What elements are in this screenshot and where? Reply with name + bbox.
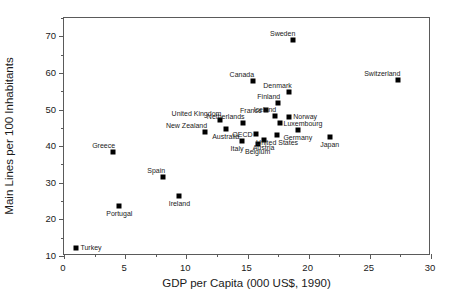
y-axis-tick-label: 30 (38, 176, 56, 187)
data-point-marker (277, 121, 282, 126)
x-axis-tick (309, 254, 310, 259)
data-point-label: OECD (232, 131, 252, 138)
data-point-label: Greece (92, 142, 115, 149)
x-axis-tick (186, 254, 187, 259)
y-axis-tick (59, 219, 64, 220)
y-axis-minor-tick (61, 164, 64, 165)
x-axis-tick-label: 5 (122, 262, 127, 273)
x-axis-tick-label: 10 (180, 262, 191, 273)
data-point-marker (290, 37, 295, 42)
data-point-marker (254, 132, 259, 137)
data-point-label: Italy (231, 145, 244, 152)
data-point-label: Germany (283, 134, 312, 141)
x-axis-tick (248, 254, 249, 259)
data-point-marker (276, 101, 281, 106)
y-axis-tick-label: 50 (38, 103, 56, 114)
data-point-marker (287, 114, 292, 119)
data-point-label: Luxembourg (284, 120, 323, 127)
x-axis-tick-label: 30 (425, 262, 436, 273)
x-axis-tick-label: 20 (302, 262, 313, 273)
y-axis-minor-tick (61, 91, 64, 92)
x-axis-tick (370, 254, 371, 259)
y-axis-tick-label: 70 (38, 30, 56, 41)
data-point-marker (111, 150, 116, 155)
data-point-label: Sweden (270, 30, 295, 37)
data-point-label: Turkey (80, 244, 101, 251)
y-axis-minor-tick (61, 238, 64, 239)
x-axis-minor-tick (400, 254, 401, 257)
x-axis-tick (125, 254, 126, 259)
data-point-label: Ireland (169, 200, 190, 207)
x-axis-minor-tick (278, 254, 279, 257)
x-axis-tick-label: 15 (241, 262, 252, 273)
data-point-marker (117, 203, 122, 208)
x-axis-minor-tick (156, 254, 157, 257)
data-point-label: Japan (320, 141, 339, 148)
x-axis-tick (64, 254, 65, 259)
data-point-marker (223, 126, 228, 131)
y-axis-tick-label: 10 (38, 250, 56, 261)
scatter-chart: Main Lines per 100 Inhabitants GDP per C… (0, 0, 450, 300)
y-axis-tick (59, 110, 64, 111)
x-axis-tick (431, 254, 432, 259)
data-point-label: Norway (293, 113, 317, 120)
data-point-marker (287, 90, 292, 95)
data-point-marker (177, 193, 182, 198)
data-point-marker (161, 175, 166, 180)
data-point-marker (74, 245, 79, 250)
y-axis-tick-label: 60 (38, 66, 56, 77)
data-point-marker (202, 129, 207, 134)
y-axis-title-text: Main Lines per 100 Inhabitants (3, 57, 15, 214)
data-point-label: Netherlands (207, 113, 245, 120)
y-axis-minor-tick (61, 201, 64, 202)
data-point-marker (239, 138, 244, 143)
data-point-label: Portugal (106, 210, 132, 217)
x-axis-tick-label: 25 (364, 262, 375, 273)
y-axis-minor-tick (61, 128, 64, 129)
data-point-label: Iceland (254, 106, 277, 113)
data-point-label: Finland (257, 93, 280, 100)
y-axis-tick-label: 20 (38, 213, 56, 224)
x-axis-tick-label: 0 (60, 262, 65, 273)
data-point-label: New Zealand (166, 122, 207, 129)
data-point-marker (272, 113, 277, 118)
y-axis-title: Main Lines per 100 Inhabitants (2, 17, 16, 255)
data-point-marker (396, 77, 401, 82)
y-axis-tick (59, 183, 64, 184)
data-point-label: Spain (147, 167, 165, 174)
y-axis-tick (59, 36, 64, 37)
y-axis-tick-label: 40 (38, 140, 56, 151)
data-point-marker (250, 78, 255, 83)
data-point-marker (275, 132, 280, 137)
x-axis-minor-tick (95, 254, 96, 257)
y-axis-minor-tick (61, 18, 64, 19)
x-axis-title: GDP per Capita (000 US$, 1990) (63, 277, 430, 289)
data-point-marker (240, 120, 245, 125)
data-point-label: Denmark (263, 82, 291, 89)
data-point-label: Canada (230, 71, 255, 78)
y-axis-tick (59, 73, 64, 74)
data-point-label: Switzerland (364, 70, 400, 77)
y-axis-tick (59, 146, 64, 147)
x-axis-minor-tick (339, 254, 340, 257)
data-point-marker (295, 127, 300, 132)
y-axis-minor-tick (61, 55, 64, 56)
data-point-marker (327, 135, 332, 140)
x-axis-minor-tick (217, 254, 218, 257)
